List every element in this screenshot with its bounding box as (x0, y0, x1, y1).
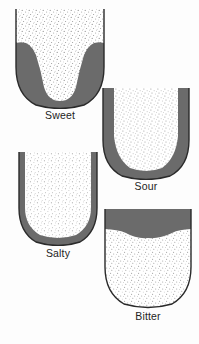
tongue-body-salty (15, 152, 101, 246)
tongue-label-sweet: Sweet (14, 109, 106, 121)
tongue-label-sour: Sour (100, 180, 192, 192)
tongue-diagram-bitter (102, 209, 194, 309)
tongue-taste-map-figure: Sweet (0, 0, 199, 344)
tongue-label-salty: Salty (15, 247, 101, 259)
stipple-fill-sour (114, 88, 178, 171)
tongue-body-sweet (14, 9, 106, 109)
tongue-panel-sweet: Sweet (14, 9, 106, 109)
tongue-diagram-salty (15, 152, 101, 246)
tongue-body-bitter (102, 209, 194, 309)
tongue-body-sour (100, 88, 192, 180)
tongue-diagram-sour (100, 88, 192, 180)
tongue-label-bitter: Bitter (102, 310, 194, 322)
tongue-panel-salty: Salty (15, 152, 101, 246)
tongue-panel-bitter: Bitter (102, 209, 194, 309)
stipple-fill-salty (25, 152, 91, 238)
tongue-panel-sour: Sour (100, 88, 192, 180)
tongue-diagram-sweet (14, 9, 106, 109)
